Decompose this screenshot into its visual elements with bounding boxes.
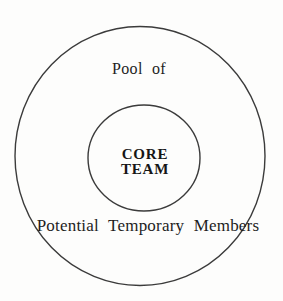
inner-circle-label-line2: TEAM <box>121 161 169 177</box>
concentric-circles-diagram: Pool of CORE TEAM Potential Temporary Me… <box>0 0 283 301</box>
outer-circle-top-label: Pool of <box>112 60 166 77</box>
outer-circle-bottom-label: Potential Temporary Members <box>37 216 260 235</box>
diagram-page: Pool of CORE TEAM Potential Temporary Me… <box>0 0 283 301</box>
inner-circle-label-line1: CORE <box>122 146 169 162</box>
